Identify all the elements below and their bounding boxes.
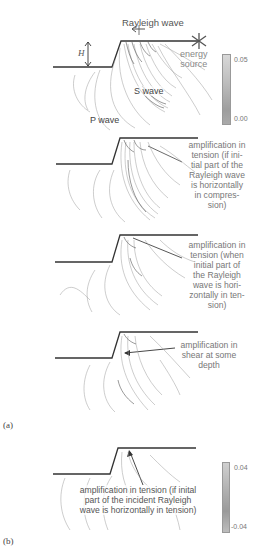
panel-tag-a: (a) (3, 420, 13, 430)
panel-a2-slope-profile (56, 138, 198, 164)
panel-a2-contours-dark (124, 140, 146, 212)
panel-a3-contours-dark (124, 237, 142, 276)
annotation-panel-a2: amplification in tension (if ini- tial p… (183, 140, 251, 210)
panel-a3-slope-profile (55, 235, 198, 262)
colorbar-b-max-label: 0.04 (234, 464, 248, 471)
colorbar-panel-a (222, 54, 231, 125)
panel-a4-contours-dark (118, 334, 136, 404)
colorbar-b-min-label: -0.04 (231, 523, 247, 530)
energy-source-label: energy source (180, 49, 208, 69)
p-wave-label: P wave (90, 115, 119, 125)
colorbar-a-max-label: 0.05 (234, 56, 248, 63)
annotation-panel-b: amplification in tension (if inital part… (68, 485, 208, 515)
rayleigh-wave-label: Rayleigh wave (122, 18, 184, 28)
panel-a1-contours-dark (126, 42, 166, 108)
annotation-panel-a4: amplification in shear at some depth (174, 340, 244, 370)
panel-tag-b: (b) (3, 536, 14, 546)
panel-a3-contours (60, 240, 195, 315)
panel-b-slope-profile (53, 448, 196, 485)
panel-a1-slope-profile (53, 25, 200, 67)
height-symbol-label: H (78, 48, 85, 58)
annotation-panel-a3: amplification in tension (when initial p… (183, 240, 251, 310)
colorbar-a-min-label: 0.00 (234, 115, 248, 122)
colorbar-panel-b (222, 462, 230, 533)
s-wave-label: S wave (134, 86, 164, 96)
panel-a2-contours (68, 142, 195, 222)
